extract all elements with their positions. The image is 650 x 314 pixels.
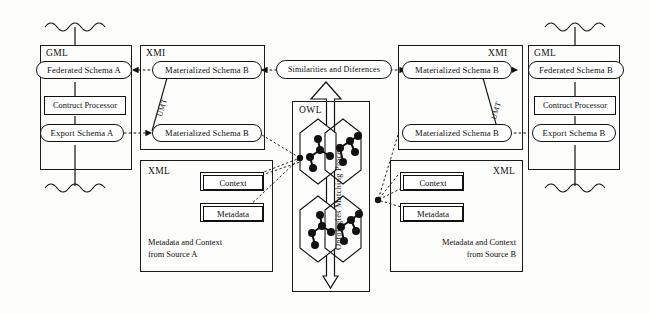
- right-xml-label: XML: [493, 166, 515, 176]
- right-bottom-wave-icon: [545, 184, 605, 192]
- left-export-schema[interactable]: Export Schema A: [40, 124, 124, 142]
- right-context-label: Context: [403, 175, 463, 190]
- left-xml-label: XML: [148, 166, 170, 176]
- diagram-canvas: Materialized B (bottom) ---------- --> F…: [0, 0, 650, 314]
- owl-label: OWL: [299, 105, 322, 115]
- left-materialized-schema-top[interactable]: Materialized Schema B: [152, 61, 262, 79]
- right-top-wave-icon: [545, 23, 605, 31]
- right-context-box[interactable]: Context: [400, 172, 464, 191]
- left-bottom-wave-icon: [45, 184, 105, 192]
- right-construct-processor[interactable]: Contruct Processor: [534, 96, 616, 115]
- ontologies-matching-process-label: Ontologies Matching Process: [334, 143, 343, 250]
- right-gml-label: GML: [534, 48, 556, 58]
- left-materialized-schema-bottom[interactable]: Materialized Schema B: [152, 124, 262, 142]
- right-export-schema[interactable]: Export Schema B: [532, 124, 616, 142]
- left-federated-schema[interactable]: Federated Schema A: [36, 61, 132, 79]
- right-materialized-schema-bottom[interactable]: Materialized Schema B: [402, 124, 512, 142]
- left-xml-caption: Metadata and Context from Source A: [148, 237, 268, 261]
- right-metadata-box[interactable]: Metadata: [400, 203, 464, 222]
- left-top-wave-icon: [45, 23, 105, 31]
- right-metadata-label: Metadata: [403, 206, 463, 221]
- right-xmi-label: XMI: [488, 48, 508, 58]
- left-xmi-label: XMI: [146, 48, 166, 58]
- right-materialized-schema-top[interactable]: Materialized Schema B: [402, 61, 512, 79]
- right-federated-schema[interactable]: Federated Schema B: [528, 61, 624, 79]
- left-context-box[interactable]: Context: [200, 172, 264, 191]
- left-metadata-label: Metadata: [203, 206, 263, 221]
- owl-container: [292, 101, 370, 292]
- left-context-label: Context: [203, 175, 263, 190]
- left-construct-processor[interactable]: Contruct Processor: [44, 96, 126, 115]
- similarities-and-differences-node[interactable]: Similarities and Diferences: [276, 60, 392, 79]
- left-metadata-box[interactable]: Metadata: [200, 203, 264, 222]
- left-gml-label: GML: [46, 48, 68, 58]
- right-xml-caption: Metadata and Context from Source B: [398, 237, 516, 261]
